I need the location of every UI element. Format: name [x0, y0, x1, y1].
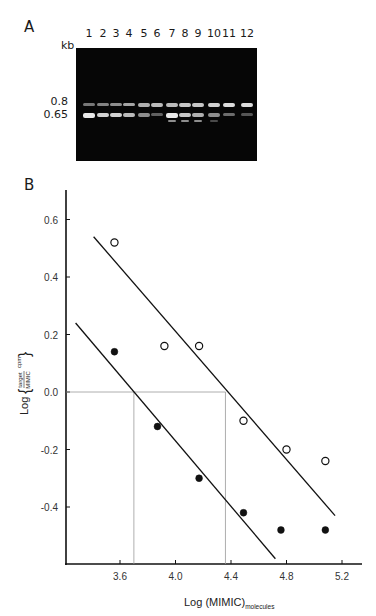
x-axis-label: Log (MIMIC)molecules: [184, 596, 275, 610]
y-tick-label: 0.2: [44, 330, 58, 341]
x-tick-label: 4.4: [224, 571, 238, 582]
fit-line: [76, 323, 276, 559]
open-circle-point: [195, 342, 202, 349]
fit-lines: [76, 237, 335, 559]
filled-circle-point: [278, 527, 285, 534]
x-tick-label: 4.8: [280, 571, 294, 582]
y-tick-label: 0.0: [44, 387, 58, 398]
open-circle-point: [161, 342, 168, 349]
y-axis-label: Log { target MIMIC cpm }: [16, 351, 33, 415]
filled-circle-point: [154, 423, 161, 430]
open-circle-point: [240, 417, 247, 424]
data-points: [111, 239, 329, 533]
open-circle-point: [322, 457, 329, 464]
svg-text:target: target: [17, 372, 23, 388]
y-tick-label: -0.4: [41, 502, 59, 513]
y-tick-label: 0.6: [44, 215, 58, 226]
fit-line: [94, 237, 335, 516]
y-tick-label: -0.2: [41, 445, 59, 456]
filled-circle-point: [240, 509, 247, 516]
filled-circle-point: [111, 348, 118, 355]
x-tick-label: 5.2: [335, 571, 349, 582]
svg-text:Log: Log: [18, 397, 30, 415]
filled-circle-point: [196, 475, 203, 482]
x-tick-label: 4.0: [169, 571, 183, 582]
x-tick-label: 3.6: [113, 571, 127, 582]
calibration-chart: 0.60.40.20.0-0.2-0.4 3.64.04.44.85.2 Log…: [0, 0, 376, 616]
svg-text:}: }: [16, 351, 33, 357]
y-tick-label: 0.4: [44, 272, 58, 283]
open-circle-point: [111, 239, 118, 246]
svg-text:cpm: cpm: [16, 357, 22, 368]
filled-circle-point: [322, 527, 329, 534]
open-circle-point: [283, 446, 290, 453]
svg-text:MIMIC: MIMIC: [25, 371, 31, 389]
